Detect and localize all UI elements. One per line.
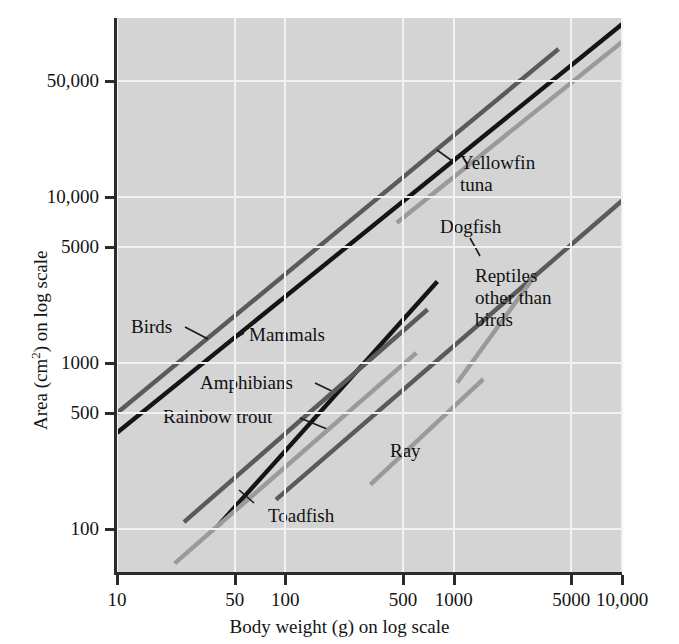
y-axis-line (114, 18, 117, 575)
y-axis-tick-label: 1000 (61, 353, 99, 372)
gridline-horizontal (117, 196, 622, 198)
x-axis-tick (116, 575, 119, 585)
y-axis-tick-label: 5000 (61, 237, 99, 256)
y-axis-title: Area (cm2) on log scale (28, 251, 52, 431)
figure-canvas: MammalsBirdsYellowfin tunaReptiles other… (0, 0, 679, 644)
gridline-horizontal (117, 412, 622, 414)
y-axis-tick (105, 196, 115, 199)
gridline-vertical (234, 18, 236, 572)
gridline-vertical (402, 18, 404, 572)
annotation-leader-line (185, 327, 208, 339)
y-axis-tick (105, 412, 115, 415)
x-axis-line (114, 572, 622, 575)
y-axis-tick-label: 50,000 (47, 71, 99, 90)
series-line (370, 379, 483, 485)
series-label-amphibians: Amphibians (200, 372, 293, 394)
gridline-horizontal (117, 362, 622, 364)
y-axis-tick (105, 246, 115, 249)
series-line (218, 281, 437, 525)
gridline-vertical (570, 18, 572, 572)
x-axis-tick (453, 575, 456, 585)
y-axis-tick-label: 500 (71, 403, 100, 422)
gridline-horizontal (117, 528, 622, 530)
x-axis-tick-label: 10,000 (562, 590, 679, 609)
gridline-horizontal (117, 80, 622, 82)
x-axis-tick (284, 575, 287, 585)
y-axis-tick (105, 362, 115, 365)
x-axis-tick-label: 100 (225, 590, 345, 609)
gridline-horizontal (117, 246, 622, 248)
series-layer (0, 0, 679, 644)
x-axis-tick (621, 575, 624, 585)
gridline-vertical (621, 18, 623, 572)
series-label-ray: Ray (390, 440, 421, 462)
series-label-rainbow-trout: Rainbow trout (163, 406, 272, 428)
series-label-mammals: Mammals (249, 324, 325, 346)
x-axis-tick-label: 10 (57, 590, 177, 609)
series-label-dogfish: Dogfish (440, 216, 501, 238)
gridline-vertical (453, 18, 455, 572)
series-label-reptiles-other-than-birds: Reptiles other than birds (475, 265, 552, 331)
x-axis-tick (402, 575, 405, 585)
y-axis-tick (105, 80, 115, 83)
x-axis-tick (234, 575, 237, 585)
y-axis-tick-label: 100 (71, 519, 100, 538)
series-label-yellowfin-tuna: Yellowfin tuna (460, 152, 535, 196)
series-label-toadfish: Toadfish (268, 505, 334, 527)
x-axis-title: Body weight (g) on log scale (0, 616, 679, 638)
y-axis-tick (105, 528, 115, 531)
series-label-birds: Birds (131, 316, 172, 338)
series-line (117, 24, 622, 432)
gridline-vertical (284, 18, 286, 572)
y-axis-tick-label: 10,000 (47, 187, 99, 206)
x-axis-tick-label: 1000 (394, 590, 514, 609)
x-axis-tick (570, 575, 573, 585)
